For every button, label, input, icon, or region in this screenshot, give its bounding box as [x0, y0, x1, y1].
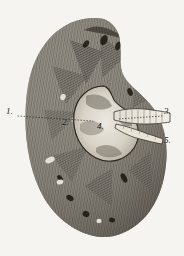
- label-1: 1.: [6, 107, 13, 116]
- label-2: 2.: [62, 118, 69, 127]
- kidney-engraving: [0, 0, 184, 256]
- label-5: 5.: [164, 136, 171, 145]
- anatomical-plate: 1. 2. 3. 4. 5.: [0, 0, 184, 256]
- label-3: 3.: [164, 107, 171, 116]
- label-4: 4.: [97, 122, 104, 131]
